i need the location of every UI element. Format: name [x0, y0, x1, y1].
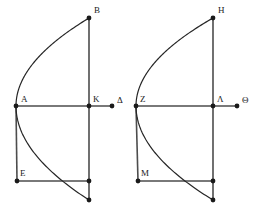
left-figure-point-axis-mid [87, 104, 92, 109]
left-figure-point-vertex [14, 104, 19, 109]
left-figure-label-axis-mid: K [93, 94, 100, 104]
right-figure-label-axis-end: Θ [242, 95, 249, 105]
right-figure-label-lower-left: M [141, 168, 149, 178]
right-figure-point-lower-left [136, 179, 141, 184]
left-figure-point-lower-left [15, 179, 20, 184]
left-figure-label-axis-end: Δ [117, 95, 123, 105]
left-figure-point-lower-mid [87, 179, 92, 184]
right-figure-point-bottom [211, 198, 216, 203]
geometry-figure: ABKΔEZHΛΘM [0, 0, 262, 209]
right-figure-label-vertex: Z [140, 94, 146, 104]
right-figure-point-axis-mid [211, 104, 216, 109]
right-figure: ZHΛΘM [134, 5, 249, 202]
left-figure-point-axis-end [110, 104, 115, 109]
left-figure: ABKΔE [14, 5, 123, 202]
left-figure-parabola [16, 18, 89, 200]
right-figure-point-axis-end [235, 104, 240, 109]
right-figure-point-lower-mid [211, 179, 216, 184]
left-figure-point-top [87, 16, 92, 21]
left-figure-label-vertex: A [21, 94, 28, 104]
right-figure-label-axis-mid: Λ [217, 94, 224, 104]
left-figure-label-top: B [94, 5, 100, 15]
right-figure-point-vertex [134, 104, 139, 109]
right-figure-point-top [211, 16, 216, 21]
right-figure-label-top: H [218, 5, 225, 15]
left-figure-label-lower-left: E [20, 168, 26, 178]
left-figure-point-bottom [87, 198, 92, 203]
